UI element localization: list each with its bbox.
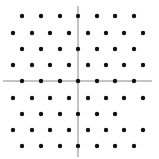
lattice-point [95,79,99,83]
lattice-point [122,96,126,100]
lattice-point [95,144,99,148]
lattice-point [58,14,62,18]
lattice-point [20,112,24,116]
lattice-point [48,96,52,100]
lattice-point [95,112,99,116]
lattice-point [30,31,34,35]
lattice-point [20,79,24,83]
lattice-point [11,63,15,67]
lattice-diagram [0,0,159,159]
lattice-point [39,14,43,18]
lattice-point [141,31,145,35]
lattice-point [104,31,108,35]
lattice-point [104,63,108,67]
lattice-point [122,128,126,132]
lattice-point [48,128,52,132]
lattice-point [76,47,80,51]
lattice-point [11,128,15,132]
lattice-point [104,128,108,132]
lattice-point [20,144,24,148]
lattice-point [132,47,136,51]
lattice-point [11,31,15,35]
lattice-point [67,63,71,67]
lattice-point [58,144,62,148]
lattice-point [113,79,117,83]
lattice-point [20,47,24,51]
lattice-point [58,112,62,116]
lattice-point [30,63,34,67]
lattice-point [113,47,117,51]
lattice-point [86,128,90,132]
lattice-point [95,14,99,18]
lattice-point [104,96,108,100]
lattice-point [20,14,24,18]
lattice-point [67,96,71,100]
lattice-point [67,128,71,132]
lattice-point [39,112,43,116]
lattice-point [58,79,62,83]
lattice-point [122,63,126,67]
lattice-point [132,144,136,148]
lattice-point [113,112,117,116]
lattice-point [132,79,136,83]
lattice-point [141,96,145,100]
lattice-point [76,79,80,83]
lattice-point [11,96,15,100]
lattice-point [113,144,117,148]
lattice-point [76,112,80,116]
lattice-point [86,96,90,100]
lattice-point [141,63,145,67]
lattice-point [113,14,117,18]
lattice-point [30,128,34,132]
lattice-point [141,128,145,132]
lattice-point [39,47,43,51]
lattice-point [39,144,43,148]
lattice-point [39,79,43,83]
lattice-point [122,31,126,35]
lattice-point [76,144,80,148]
lattice-point [58,47,62,51]
lattice-point [86,63,90,67]
lattice-point [76,14,80,18]
lattice-plot [0,0,159,159]
lattice-point [48,31,52,35]
lattice-point [48,63,52,67]
lattice-point [132,14,136,18]
lattice-point [67,31,71,35]
lattice-point [30,96,34,100]
lattice-point [95,47,99,51]
lattice-point [86,31,90,35]
